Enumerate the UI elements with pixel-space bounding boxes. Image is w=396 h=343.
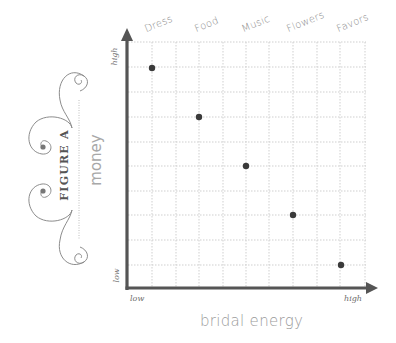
x-tick-high: high bbox=[344, 294, 362, 303]
point-music bbox=[243, 163, 249, 169]
x-axis-arrow-icon bbox=[366, 282, 378, 294]
y-tick-low: low bbox=[112, 268, 121, 282]
y-axis-arrow-icon bbox=[121, 28, 133, 41]
x-tick-low: low bbox=[130, 294, 144, 303]
point-favors bbox=[338, 262, 344, 268]
point-food bbox=[196, 114, 202, 120]
chart-plot bbox=[0, 0, 396, 343]
y-tick-high: high bbox=[110, 48, 119, 66]
point-dress bbox=[149, 65, 155, 71]
x-axis-title: bridal energy bbox=[200, 312, 360, 330]
point-flowers bbox=[290, 212, 296, 218]
